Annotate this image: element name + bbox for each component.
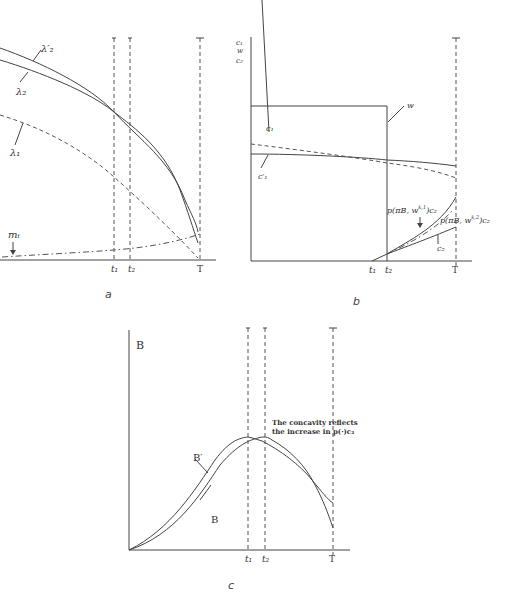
panel-b-t2-label: t₂ — [385, 265, 393, 275]
w-label: w — [407, 101, 414, 110]
panel-a-t2-label: t₂ — [128, 264, 136, 274]
panel-a: λ′₂ λ₂ λ₁ mₜ t₁ t₂ T a — [0, 38, 216, 301]
lambda2-curve — [0, 60, 198, 243]
figure: λ′₂ λ₂ λ₁ mₜ t₁ t₂ T a c₁ w c₂ w — [0, 0, 523, 603]
y-label-w: w — [237, 47, 243, 55]
c2-label: c₂ — [437, 244, 445, 253]
c1-curve — [251, 144, 456, 178]
concavity-annotation-line2: the increase in p(·)c₂ — [272, 427, 354, 436]
m-curve — [2, 234, 200, 257]
panel-c-t1-label: t₁ — [245, 554, 252, 564]
c1-prime-label: c′₁ — [258, 172, 268, 181]
panel-a-T-label: T — [197, 264, 203, 274]
panel-c-caption: c — [228, 579, 234, 592]
p2-label-main: p(πB, w — [440, 216, 471, 225]
y-label-c2: c₂ — [236, 57, 243, 65]
leader — [261, 155, 268, 168]
leader — [262, 0, 269, 132]
panel-c-t2-label: t₂ — [262, 554, 270, 564]
p1-label-sup: k,1 — [418, 204, 426, 210]
panel-c-y-label: B — [136, 339, 144, 352]
arrowhead-icon — [417, 223, 423, 228]
B-prime-label: B′ — [193, 452, 203, 463]
arrowhead-icon — [10, 250, 16, 255]
p1-label-main: p(πB, w — [387, 206, 418, 215]
lambda1-label: λ₁ — [9, 147, 20, 158]
leader — [20, 72, 28, 82]
p2-label-tail: )c₂ — [478, 216, 490, 225]
B-label: B — [211, 514, 218, 525]
leader — [33, 50, 41, 61]
lambda2-prime-label: λ′₂ — [40, 43, 54, 54]
p2-label: p(πB, wk,2)c₂ — [440, 214, 490, 225]
panel-c: B B′ B The concavity reflects the increa… — [129, 328, 358, 592]
lambda2-label: λ₂ — [15, 86, 26, 97]
panel-c-T-label: T — [329, 554, 335, 564]
B-curve — [129, 437, 333, 550]
leader — [200, 485, 211, 500]
y-label-c1: c₁ — [236, 39, 243, 47]
c2-curve — [387, 227, 456, 254]
panel-b-caption: b — [353, 295, 360, 308]
c1-prime-curve — [251, 154, 456, 166]
p1-label-tail: )c₂ — [425, 206, 437, 215]
leader — [388, 106, 404, 122]
panel-b: c₁ w c₂ w c₁ c′₁ p(πB, wk,1)c₂ p(πB, wk,… — [236, 0, 490, 308]
panel-b-base-segment — [372, 254, 387, 261]
panel-b-T-label: T — [452, 265, 458, 275]
panel-a-caption: a — [105, 288, 112, 301]
lambda1-curve — [0, 115, 198, 258]
c1-label: c₁ — [266, 124, 274, 133]
m-label: mₜ — [8, 229, 20, 240]
panel-a-t1-label: t₁ — [111, 264, 118, 274]
panel-b-t1-label: t₁ — [369, 265, 376, 275]
p2-label-sup: k,2 — [471, 214, 479, 220]
lambda2-prime-curve — [0, 48, 198, 232]
p1-label: p(πB, wk,1)c₂ — [387, 204, 437, 215]
leader — [15, 123, 23, 145]
concavity-annotation-line1: The concavity reflects — [272, 418, 358, 427]
